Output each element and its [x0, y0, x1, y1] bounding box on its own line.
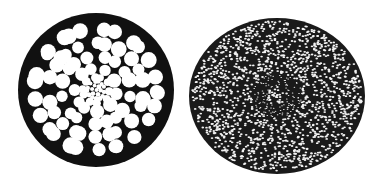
illustration	[0, 0, 377, 184]
right-cross-section	[189, 18, 365, 174]
left-cross-section	[18, 13, 174, 167]
cross-section-drawing	[0, 0, 377, 184]
